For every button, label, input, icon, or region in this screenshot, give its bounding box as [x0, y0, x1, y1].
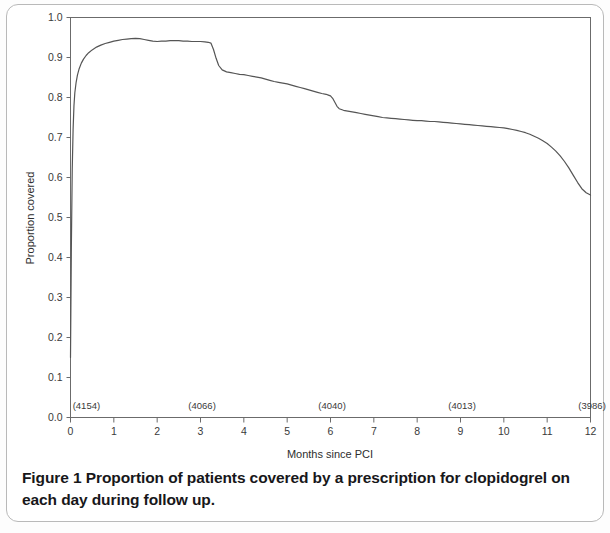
x-tick-label: 0: [68, 425, 74, 437]
figure-caption: Figure 1 Proportion of patients covered …: [22, 467, 574, 511]
y-tick-label: 1.0: [48, 11, 63, 23]
x-tick-label: 11: [542, 425, 553, 437]
line-chart: 0.00.10.20.30.40.50.60.70.80.91.0 012345…: [0, 0, 610, 466]
y-tick-label: 0.5: [48, 211, 63, 223]
y-tick-label: 0.6: [48, 171, 63, 183]
y-tick-label: 0.8: [48, 91, 63, 103]
chart-axes: [71, 18, 591, 418]
y-tick-label: 0.0: [48, 411, 63, 423]
data-series-line: [71, 38, 591, 357]
y-tick-label: 0.1: [48, 371, 63, 383]
x-axis-title: Months since PCI: [287, 448, 373, 460]
at-risk-count-label: (3986): [578, 400, 605, 411]
x-tick-label: 5: [284, 425, 290, 437]
at-risk-count-label: (4066): [188, 400, 215, 411]
y-tick-label: 0.7: [48, 131, 63, 143]
x-tick-label: 10: [498, 425, 510, 437]
y-axis-ticks: 0.00.10.20.30.40.50.60.70.80.91.0: [48, 11, 71, 423]
chart-plot-area: 0.00.10.20.30.40.50.60.70.80.91.0 012345…: [0, 0, 610, 466]
at-risk-count-label: (4040): [318, 400, 345, 411]
x-tick-label: 8: [414, 425, 420, 437]
y-tick-label: 0.4: [48, 251, 63, 263]
figure-caption-text: Proportion of patients covered by a pres…: [22, 469, 570, 508]
x-axis-ticks: 0123456789101112: [68, 418, 597, 437]
y-tick-label: 0.9: [48, 51, 63, 63]
y-tick-label: 0.3: [48, 291, 63, 303]
y-tick-label: 0.2: [48, 331, 63, 343]
at-risk-count-label: (4154): [73, 400, 100, 411]
x-tick-label: 6: [328, 425, 334, 437]
series-line: [71, 38, 591, 357]
at-risk-count-label: (4013): [448, 400, 475, 411]
figure-caption-label: Figure 1: [22, 469, 82, 486]
risk-count-annotations: (4154)(4066)(4040)(4013)(3986): [73, 400, 606, 411]
y-axis-title: Proportion covered: [24, 172, 36, 265]
figure-page: 0.00.10.20.30.40.50.60.70.80.91.0 012345…: [0, 0, 610, 533]
x-tick-label: 12: [585, 425, 597, 437]
x-tick-label: 3: [198, 425, 204, 437]
x-tick-label: 4: [241, 425, 247, 437]
x-tick-label: 7: [371, 425, 377, 437]
x-tick-label: 2: [154, 425, 160, 437]
x-tick-label: 9: [458, 425, 464, 437]
x-tick-label: 1: [111, 425, 117, 437]
